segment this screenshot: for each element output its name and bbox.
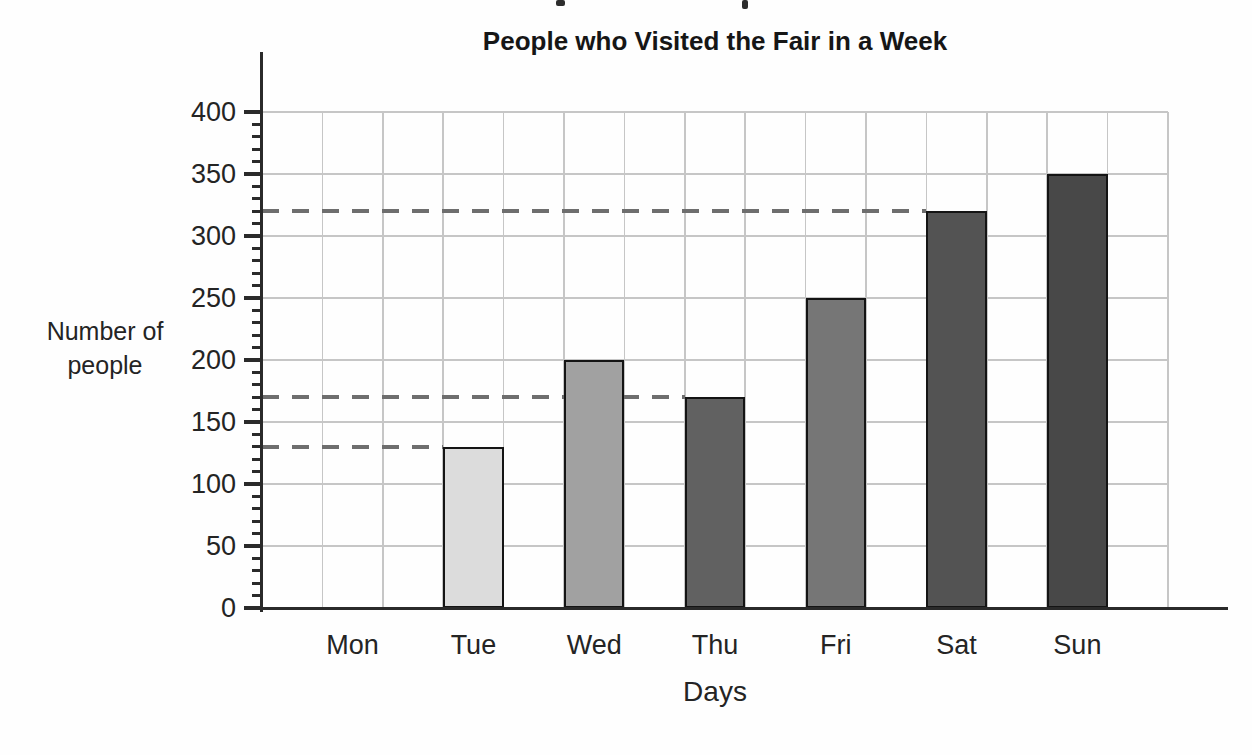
- y-minor-tick: [252, 148, 262, 151]
- x-axis-title: Days: [262, 676, 1168, 708]
- gridline-horizontal: [262, 359, 1168, 361]
- y-minor-tick: [252, 309, 262, 312]
- y-minor-tick: [252, 160, 262, 163]
- bar-sun: [1047, 174, 1107, 608]
- y-minor-tick: [252, 396, 262, 399]
- y-minor-tick: [252, 495, 262, 498]
- gridline-horizontal: [262, 297, 1168, 299]
- guide-line-320: [262, 209, 926, 213]
- x-tick-label-sun: Sun: [1016, 630, 1138, 661]
- x-tick-label-fri: Fri: [775, 630, 897, 661]
- y-tick-label-350: 350: [150, 158, 236, 190]
- y-tick-label-250: 250: [150, 282, 236, 314]
- y-minor-tick: [252, 259, 262, 262]
- y-minor-tick: [252, 520, 262, 523]
- y-major-tick: [244, 420, 263, 424]
- y-minor-tick: [252, 408, 262, 411]
- y-minor-tick: [252, 569, 262, 572]
- y-tick-label-200: 200: [150, 344, 236, 376]
- y-minor-tick: [252, 284, 262, 287]
- gridline-horizontal: [262, 111, 1168, 113]
- y-major-tick: [244, 234, 263, 238]
- bar-wed: [564, 360, 624, 608]
- bar-fri: [806, 298, 866, 608]
- y-minor-tick: [252, 470, 262, 473]
- y-minor-tick: [252, 532, 262, 535]
- y-minor-tick: [252, 272, 262, 275]
- y-minor-tick: [252, 334, 262, 337]
- y-axis-title-line1: Number of: [20, 314, 190, 348]
- scan-artifact: [742, 0, 748, 9]
- bar-tue: [443, 447, 503, 608]
- y-tick-label-300: 300: [150, 220, 236, 252]
- y-minor-tick: [252, 197, 262, 200]
- y-minor-tick: [252, 123, 262, 126]
- x-axis: [252, 607, 1228, 610]
- x-tick-label-wed: Wed: [533, 630, 655, 661]
- guide-line-130: [262, 445, 443, 449]
- y-minor-tick: [252, 433, 262, 436]
- bar-chart-figure: People who Visited the Fair in a Week Nu…: [0, 0, 1252, 755]
- gridline-horizontal: [262, 235, 1168, 237]
- x-tick-label-tue: Tue: [412, 630, 534, 661]
- x-tick-label-thu: Thu: [654, 630, 776, 661]
- y-tick-label-400: 400: [150, 96, 236, 128]
- y-minor-tick: [252, 507, 262, 510]
- y-minor-tick: [252, 346, 262, 349]
- y-minor-tick: [252, 135, 262, 138]
- y-minor-tick: [252, 557, 262, 560]
- y-major-tick: [244, 544, 263, 548]
- y-minor-tick: [252, 383, 262, 386]
- y-tick-label-100: 100: [150, 468, 236, 500]
- y-minor-tick: [252, 247, 262, 250]
- y-major-tick: [244, 482, 263, 486]
- bar-sat: [926, 211, 986, 608]
- chart-title: People who Visited the Fair in a Week: [262, 26, 1168, 57]
- y-minor-tick: [252, 445, 262, 448]
- y-major-tick: [244, 296, 263, 300]
- y-major-tick: [244, 358, 263, 362]
- y-major-tick: [244, 172, 263, 176]
- y-major-tick: [244, 110, 263, 114]
- scan-artifact: [556, 0, 565, 6]
- y-minor-tick: [252, 210, 262, 213]
- bar-thu: [685, 397, 745, 608]
- y-minor-tick: [252, 371, 262, 374]
- y-minor-tick: [252, 222, 262, 225]
- y-tick-label-150: 150: [150, 406, 236, 438]
- y-minor-tick: [252, 458, 262, 461]
- y-minor-tick: [252, 321, 262, 324]
- gridline-horizontal: [262, 173, 1168, 175]
- x-tick-label-mon: Mon: [292, 630, 414, 661]
- y-tick-label-0: 0: [150, 592, 236, 624]
- y-minor-tick: [252, 582, 262, 585]
- y-minor-tick: [252, 185, 262, 188]
- y-major-tick: [244, 606, 263, 610]
- y-minor-tick: [252, 594, 262, 597]
- x-tick-label-sat: Sat: [896, 630, 1018, 661]
- y-tick-label-50: 50: [150, 530, 236, 562]
